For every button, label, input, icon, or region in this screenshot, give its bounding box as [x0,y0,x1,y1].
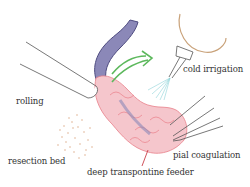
label-cold-irrigation: cold irrigation [183,64,243,74]
label-rolling: rolling [16,96,44,106]
lesion-mass [95,76,187,153]
surgical-diagram: cold irrigation rolling resection bed pi… [0,0,250,187]
label-resection-bed: resection bed [8,156,65,166]
resection-bed-dots [57,114,92,158]
label-pial-coagulation: pial coagulation [173,150,240,160]
rolling-arrow-icon [112,51,152,82]
deep-feeder-vessel [142,150,148,166]
irrigation-spray [148,78,170,100]
label-deep-transpontine-feeder: deep transpontine feeder [87,167,194,177]
dissector-instrument [20,42,98,98]
